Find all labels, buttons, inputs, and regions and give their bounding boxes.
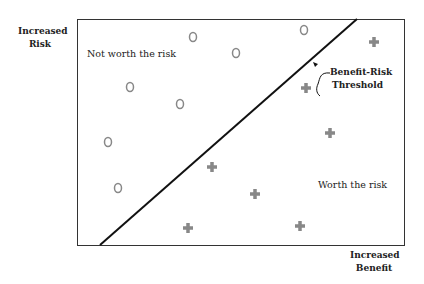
threshold-pointer: [317, 73, 330, 96]
plus-marker: [325, 128, 335, 138]
plus-marker: [207, 162, 217, 172]
plus-marker: [301, 83, 311, 93]
circle-marker: [190, 33, 197, 42]
threshold-label: Benefit-Risk Threshold: [330, 66, 392, 92]
region-label-worth: Worth the risk: [318, 179, 387, 190]
circle-marker: [105, 138, 112, 147]
plus-marker: [295, 221, 305, 231]
plus-marker: [183, 223, 193, 233]
threshold-label-line2: Threshold: [330, 79, 392, 92]
pointer-arrowhead: [313, 62, 318, 67]
circle-marker: [177, 100, 184, 109]
circle-marker: [115, 184, 122, 193]
plus-marker: [250, 189, 260, 199]
region-label-not-worth: Not worth the risk: [87, 48, 176, 59]
circle-marker: [127, 83, 134, 92]
plus-marker: [369, 37, 379, 47]
circle-marker: [233, 49, 240, 58]
circle-marker: [301, 26, 308, 35]
plot-area: [0, 0, 424, 284]
threshold-label-line1: Benefit-Risk: [330, 66, 392, 79]
